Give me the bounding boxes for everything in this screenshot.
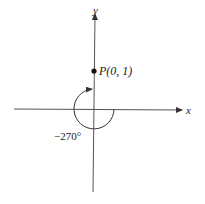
point-p-label: P(0, 1) [98,64,132,78]
point-p [91,68,96,73]
coordinate-plane: P(0, 1) y x −270° [0,0,205,204]
x-axis [14,109,182,110]
diagram-canvas: P(0, 1) y x −270° [0,0,205,204]
y-axis-label: y [92,4,98,16]
x-axis-label: x [185,104,191,116]
y-axis [93,14,95,192]
angle-label: −270° [54,130,81,142]
